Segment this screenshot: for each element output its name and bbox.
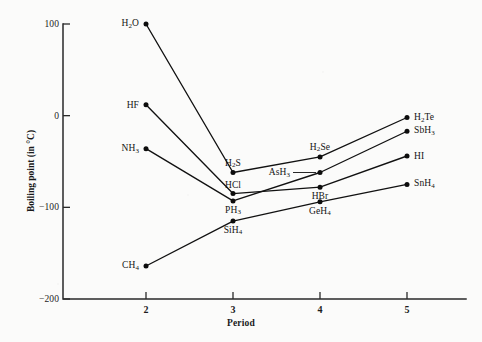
series-lines xyxy=(146,24,407,266)
data-point xyxy=(144,264,149,269)
point-label: GeH4 xyxy=(309,206,331,217)
chart-figure: 1000−100−200 2345 H2OHFNH3CH4H2SHClPH3Si… xyxy=(0,0,482,342)
data-point xyxy=(318,170,323,175)
data-point xyxy=(231,198,236,203)
data-point xyxy=(144,102,149,107)
y-tick-label: −200 xyxy=(33,294,59,304)
y-tick-label: −100 xyxy=(33,202,59,212)
data-point xyxy=(405,115,410,120)
y-axis-ticks xyxy=(63,24,70,299)
data-point xyxy=(231,219,236,224)
x-tick-label: 5 xyxy=(404,304,409,315)
point-label: HBr xyxy=(312,191,329,201)
point-label: AsH3 xyxy=(269,167,290,178)
data-point xyxy=(144,22,149,27)
data-point xyxy=(231,170,236,175)
y-axis-title: Boiling point (in °C) xyxy=(26,130,36,212)
point-label: SbH3 xyxy=(414,126,435,137)
x-tick-label: 3 xyxy=(230,304,235,315)
plot-area xyxy=(0,0,482,342)
point-label: SiH4 xyxy=(224,225,243,236)
x-axis-ticks xyxy=(146,292,407,299)
axes xyxy=(63,24,466,299)
axis-lines xyxy=(63,24,466,299)
y-tick-label: 100 xyxy=(33,19,59,29)
point-label: HI xyxy=(414,151,424,161)
point-label: H2O xyxy=(121,18,139,29)
data-point xyxy=(405,182,410,187)
point-label: H2Te xyxy=(414,112,434,123)
x-tick-label: 4 xyxy=(317,304,322,315)
data-point xyxy=(405,129,410,134)
data-point xyxy=(405,154,410,159)
y-tick-label: 0 xyxy=(33,111,59,121)
data-point-markers xyxy=(144,22,410,269)
series-line xyxy=(146,184,407,266)
point-label: H2Se xyxy=(310,142,330,153)
data-point xyxy=(144,146,149,151)
data-point xyxy=(231,191,236,196)
x-tick-label: 2 xyxy=(143,304,148,315)
data-point xyxy=(318,154,323,159)
point-label: HCl xyxy=(225,180,241,190)
point-label: HF xyxy=(127,100,139,110)
point-label: PH3 xyxy=(225,205,241,216)
point-label: SnH4 xyxy=(414,179,435,190)
point-label: H2S xyxy=(225,157,241,168)
point-label: CH4 xyxy=(122,260,139,271)
data-point xyxy=(318,185,323,190)
point-label: NH3 xyxy=(121,143,139,154)
x-axis-title: Period xyxy=(227,318,255,328)
